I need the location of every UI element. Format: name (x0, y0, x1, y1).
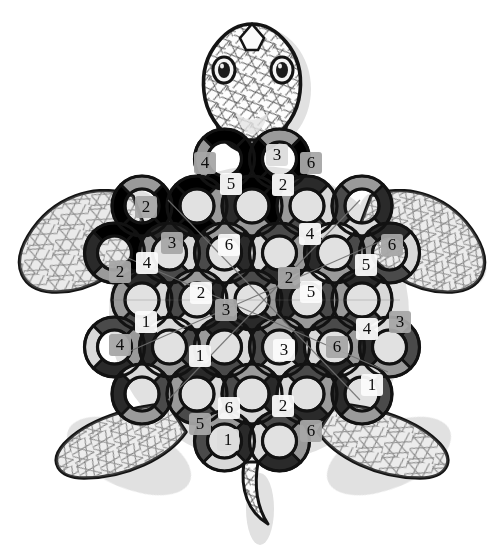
number-value: 4 (363, 319, 372, 338)
right-eye (271, 57, 293, 83)
shell-number: 4 (109, 334, 131, 356)
shell-number: 5 (189, 413, 211, 435)
shell-number: 1 (189, 345, 211, 367)
shell-number: 2 (272, 395, 294, 417)
sea-turtle-artwork: 436522364624252531434136162561 (0, 0, 504, 554)
shell-number: 4 (356, 318, 378, 340)
shell-number: 4 (299, 223, 321, 245)
number-value: 4 (116, 335, 125, 354)
number-value: 5 (227, 174, 236, 193)
number-value: 1 (368, 375, 377, 394)
shell-number: 3 (266, 144, 288, 166)
shell-number: 3 (273, 339, 295, 361)
shell-number: 3 (161, 232, 183, 254)
number-value: 5 (307, 282, 316, 301)
shell-number: 6 (218, 397, 240, 419)
shell-number: 2 (272, 174, 294, 196)
shell-number: 4 (194, 152, 216, 174)
number-value: 4 (201, 153, 210, 172)
shell-number: 5 (355, 254, 377, 276)
shell-number: 3 (215, 299, 237, 321)
shell-number: 2 (278, 267, 300, 289)
number-value: 4 (306, 224, 315, 243)
number-value: 5 (362, 255, 371, 274)
number-value: 6 (388, 235, 397, 254)
shell-number: 6 (381, 234, 403, 256)
number-value: 6 (225, 235, 234, 254)
number-value: 1 (224, 430, 233, 449)
shell-number: 4 (136, 252, 158, 274)
number-value: 2 (279, 175, 288, 194)
number-value: 3 (280, 340, 289, 359)
shell-number: 1 (135, 311, 157, 333)
number-value: 4 (143, 253, 152, 272)
number-value: 3 (222, 300, 231, 319)
shell-number: 2 (135, 196, 157, 218)
number-value: 6 (225, 398, 234, 417)
shell-number: 2 (190, 282, 212, 304)
shell-number: 6 (300, 420, 322, 442)
left-eye (213, 57, 235, 83)
shell-number: 1 (217, 429, 239, 451)
number-value: 2 (197, 283, 206, 302)
number-value: 2 (285, 268, 294, 287)
shell-number: 3 (389, 311, 411, 333)
number-value: 6 (307, 421, 316, 440)
shell-number: 5 (300, 281, 322, 303)
number-value: 2 (142, 197, 151, 216)
number-value: 3 (396, 312, 405, 331)
number-value: 1 (196, 346, 205, 365)
shell-number: 2 (109, 261, 131, 283)
number-value: 3 (273, 145, 282, 164)
number-value: 6 (307, 153, 316, 172)
shell-number: 6 (326, 336, 348, 358)
number-value: 2 (116, 262, 125, 281)
number-value: 5 (196, 414, 205, 433)
number-value: 1 (142, 312, 151, 331)
shell-number: 6 (300, 152, 322, 174)
shell-number: 1 (361, 374, 383, 396)
shell-number: 6 (218, 234, 240, 256)
shell-number: 5 (220, 173, 242, 195)
number-value: 3 (168, 233, 177, 252)
number-value: 6 (333, 337, 342, 356)
illustration-canvas: 436522364624252531434136162561 (0, 0, 504, 554)
number-value: 2 (279, 396, 288, 415)
